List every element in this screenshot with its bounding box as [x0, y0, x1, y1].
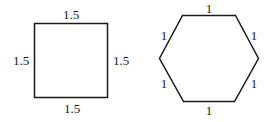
hexagon-upper-left-label: 1 — [161, 28, 168, 43]
square-bottom-label: 1.5 — [64, 101, 80, 116]
hexagon-lower-right-label: 1 — [251, 76, 258, 91]
hexagon-bottom-label: 1 — [206, 103, 213, 118]
hexagon-top-label: 1 — [206, 1, 213, 16]
hexagon-lower-left-label: 1 — [161, 76, 168, 91]
square-right-label: 1.5 — [113, 53, 129, 68]
hexagon-shape — [160, 16, 259, 102]
square-top-label: 1.5 — [63, 7, 79, 22]
hexagon-upper-right-label: 1 — [251, 28, 258, 43]
square-shape — [35, 24, 108, 98]
shapes-diagram: 1.5 1.5 1.5 1.5 1 1 1 1 1 1 — [0, 0, 265, 122]
square-left-label: 1.5 — [13, 53, 29, 68]
